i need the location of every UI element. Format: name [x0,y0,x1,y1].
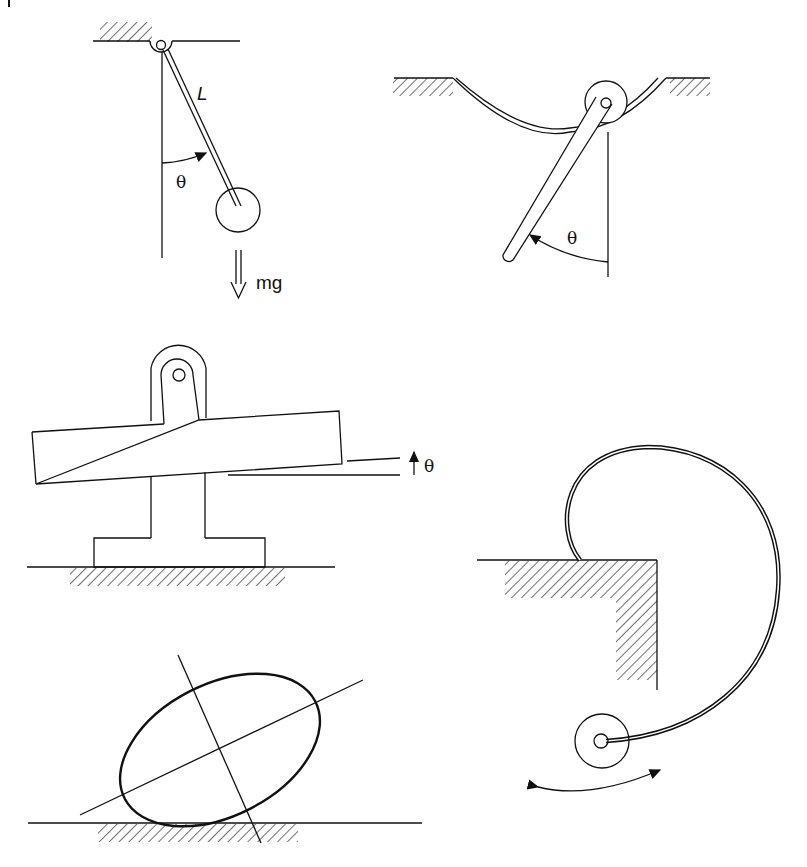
ceiling-hatch [100,22,152,42]
support-panel [27,345,414,586]
angle-label: θ [424,456,434,476]
oscillation-arrow [538,770,660,791]
weight-arrow-head [231,282,246,298]
mechanics-diagram [0,0,807,867]
wall-hatch [505,561,657,680]
minor-axis [178,655,261,843]
pendulum-panel [93,22,260,298]
major-axis [80,680,363,815]
angle-arrow [162,153,206,163]
swinging-rod [503,97,612,262]
ellipse-panel [28,643,422,858]
pivot-pin [157,41,166,50]
angle-label: θ [567,228,577,248]
pendulum-bob [216,188,260,232]
disk-hub [594,734,608,748]
spring-panel [477,447,779,791]
groove-panel [393,78,710,277]
angle-label: θ [176,172,186,192]
length-label: L [197,83,208,105]
hanger-pivot [173,369,185,381]
weight-label: mg [256,272,282,294]
